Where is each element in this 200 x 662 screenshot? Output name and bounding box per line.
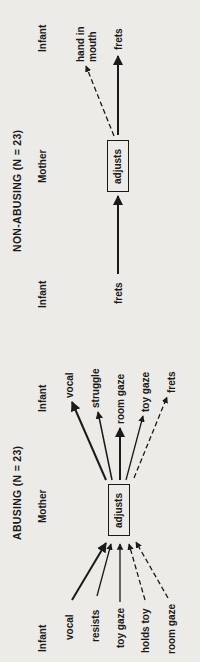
nonabusing-consequent-hand-in: hand in bbox=[75, 26, 87, 62]
nonabusing-title: NON-ABUSING (N = 23) bbox=[11, 130, 23, 252]
nonabusing-consequent-mouth: mouth bbox=[87, 31, 99, 62]
arrow-adjusts-to-handinmouth bbox=[86, 66, 114, 136]
arrow-adjusts-to-vocal bbox=[72, 402, 106, 480]
abusing-mother-header: Mother bbox=[37, 490, 49, 523]
abusing-adjusts-label: adjusts bbox=[113, 493, 125, 528]
abusing-antecedent-toy-gaze: toy gaze bbox=[115, 608, 127, 648]
abusing-antecedent-vocal: vocal bbox=[64, 614, 76, 640]
arrow-layer bbox=[0, 0, 200, 662]
nonabusing-adjusts-label: adjusts bbox=[112, 149, 124, 184]
nonabusing-mother-header: Mother bbox=[37, 150, 49, 183]
abusing-infant-before-header: Infant bbox=[37, 625, 49, 652]
arrow-resists-to-adjusts bbox=[97, 544, 111, 596]
nonabusing-consequent-frets: frets bbox=[113, 28, 125, 50]
sequential-analysis-diagram: ABUSING (N = 23) Mother adjusts Infant v… bbox=[0, 0, 200, 662]
arrow-adjusts-to-toygaze bbox=[126, 416, 143, 480]
abusing-infant-after-header: Infant bbox=[37, 385, 49, 412]
nonabusing-infant-after-header: Infant bbox=[37, 25, 49, 52]
abusing-consequent-frets: frets bbox=[166, 371, 178, 393]
abusing-antecedent-arrows bbox=[72, 542, 168, 602]
nonabusing-antecedent-frets: frets bbox=[113, 282, 125, 304]
abusing-consequent-toy-gaze: toy gaze bbox=[140, 372, 152, 412]
abusing-consequent-room-gaze: room gaze bbox=[115, 374, 127, 424]
nonabusing-infant-before-header: Infant bbox=[37, 281, 49, 308]
abusing-consequent-struggle: struggle bbox=[90, 369, 102, 408]
abusing-antecedent-holds-toy: holds toy bbox=[140, 609, 152, 653]
arrow-vocal-to-adjusts bbox=[72, 543, 106, 600]
abusing-antecedent-room-gaze: room gaze bbox=[166, 604, 178, 654]
arrow-roomgaze-to-adjusts bbox=[136, 542, 168, 598]
abusing-antecedent-resists: resists bbox=[90, 610, 102, 642]
abusing-title: ABUSING (N = 23) bbox=[11, 446, 23, 540]
arrow-adjusts-to-struggle bbox=[98, 412, 112, 480]
abusing-consequent-vocal: vocal bbox=[64, 372, 76, 398]
